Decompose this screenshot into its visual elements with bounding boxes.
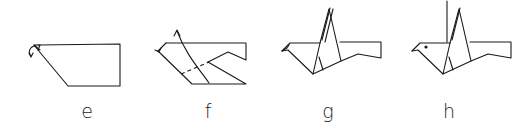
step-label-g: g bbox=[322, 100, 333, 122]
step-label-f: f bbox=[205, 100, 212, 122]
step-f-figure bbox=[155, 30, 246, 84]
bird-eye-dot bbox=[424, 45, 427, 48]
step-label-h: h bbox=[443, 100, 455, 122]
step-e-figure bbox=[29, 44, 120, 86]
lift-wing-arrow-icon bbox=[177, 31, 209, 83]
step-g-figure bbox=[282, 8, 381, 74]
step-h-figure bbox=[412, 1, 511, 74]
step-label-e: e bbox=[81, 100, 93, 122]
